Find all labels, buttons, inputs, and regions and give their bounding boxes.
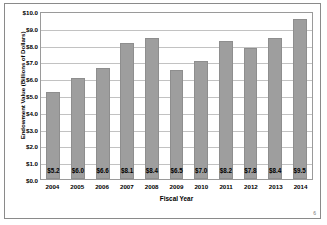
y-axis-tick-label: $8.0 <box>13 42 38 49</box>
chart-frame: Endowment Value (Billions of Dollars) $1… <box>4 3 321 219</box>
bar[interactable]: $7.8 <box>244 48 258 179</box>
plot-area: $5.2$6.0$6.6$8.1$8.4$6.5$7.0$8.2$7.8$8.4… <box>40 12 313 180</box>
y-axis-tick-label: $4.0 <box>13 109 38 116</box>
x-axis-tick-label: 2007 <box>114 183 139 190</box>
x-axis-tick-label: 2009 <box>164 183 189 190</box>
y-axis-tick-label: $5.0 <box>13 93 38 100</box>
y-axis-tick-label: $2.0 <box>13 143 38 150</box>
bar[interactable]: $6.0 <box>71 78 85 179</box>
x-axis-tick-label: 2008 <box>139 183 164 190</box>
bar[interactable]: $9.5 <box>293 19 307 179</box>
bar[interactable]: $5.2 <box>46 92 60 179</box>
y-axis-tick-label: $1.0 <box>13 160 38 167</box>
x-axis-tick-label: 2011 <box>214 183 239 190</box>
x-axis-title: Fiscal Year <box>40 195 313 202</box>
bar-value-label: $8.4 <box>269 167 281 174</box>
bar[interactable]: $8.4 <box>145 38 159 179</box>
y-axis-tick-label: $3.0 <box>13 126 38 133</box>
bar-value-label: $5.2 <box>47 167 59 174</box>
bar[interactable]: $8.1 <box>120 43 134 179</box>
bar-value-label: $6.6 <box>96 167 108 174</box>
x-axis-tick-label: 2006 <box>90 183 115 190</box>
bar[interactable]: $8.4 <box>268 38 282 179</box>
y-axis-tick-label: $6.0 <box>13 76 38 83</box>
bar-value-label: $8.1 <box>121 167 133 174</box>
bar[interactable]: $7.0 <box>194 61 208 179</box>
x-axis-tick-label: 2004 <box>40 183 65 190</box>
bar-slot: $7.0 <box>189 13 214 179</box>
y-axis-tick-label: $0.0 <box>13 177 38 184</box>
bar-value-label: $6.5 <box>170 167 182 174</box>
x-axis-tick-label: 2012 <box>239 183 264 190</box>
bar-slot: $7.8 <box>238 13 263 179</box>
bar[interactable]: $8.2 <box>219 41 233 179</box>
bar-value-label: $8.2 <box>220 167 232 174</box>
x-axis-tick-label: 2013 <box>263 183 288 190</box>
bar-value-label: $9.5 <box>294 167 306 174</box>
bar-value-label: $6.0 <box>72 167 84 174</box>
page-marker: 6 <box>313 210 316 216</box>
bar-value-label: $8.4 <box>146 167 158 174</box>
bar-slot: $8.4 <box>263 13 288 179</box>
bar-slot: $6.6 <box>90 13 115 179</box>
bar-value-label: $7.0 <box>195 167 207 174</box>
bar-slot: $8.4 <box>140 13 165 179</box>
bar-series: $5.2$6.0$6.6$8.1$8.4$6.5$7.0$8.2$7.8$8.4… <box>41 13 312 179</box>
y-axis-tick-labels: $10.0$9.0$8.0$7.0$6.0$5.0$4.0$3.0$2.0$1.… <box>13 12 38 180</box>
bar-slot: $5.2 <box>41 13 66 179</box>
x-axis-tick-labels: 2004200520062007200820092010201120122013… <box>40 183 313 190</box>
x-axis-tick-label: 2010 <box>189 183 214 190</box>
y-axis-tick-label: $10.0 <box>13 9 38 16</box>
bar-value-label: $7.8 <box>244 167 256 174</box>
bar[interactable]: $6.6 <box>96 68 110 179</box>
x-axis-tick-label: 2014 <box>288 183 313 190</box>
bar-slot: $6.5 <box>164 13 189 179</box>
y-axis-tick-label: $7.0 <box>13 59 38 66</box>
bar-slot: $8.1 <box>115 13 140 179</box>
y-axis-tick-label: $9.0 <box>13 25 38 32</box>
bar-slot: $9.5 <box>287 13 312 179</box>
bar[interactable]: $6.5 <box>170 70 184 179</box>
bar-slot: $6.0 <box>66 13 91 179</box>
x-axis-tick-label: 2005 <box>65 183 90 190</box>
bar-slot: $8.2 <box>213 13 238 179</box>
